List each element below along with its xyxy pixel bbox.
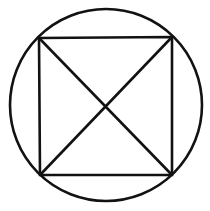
figure-canvas: [0, 0, 210, 211]
geometry-figure: [0, 0, 210, 211]
